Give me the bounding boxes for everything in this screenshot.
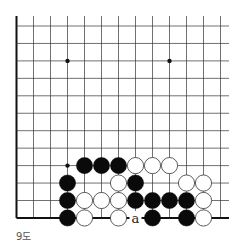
star-point-icon <box>65 59 69 63</box>
point-label: a <box>132 211 140 226</box>
white-stone <box>178 175 194 191</box>
black-stone <box>59 210 75 226</box>
black-stone <box>110 158 126 174</box>
white-stone <box>127 158 143 174</box>
star-point-icon <box>167 59 171 63</box>
white-stone <box>161 158 177 174</box>
black-stone <box>127 175 143 191</box>
white-stone <box>110 192 126 208</box>
black-stone <box>59 175 75 191</box>
black-stone <box>93 158 109 174</box>
black-stone <box>127 192 143 208</box>
white-stone <box>195 175 211 191</box>
white-stone <box>195 192 211 208</box>
black-stone <box>76 158 92 174</box>
black-stone <box>161 192 177 208</box>
point-labels: a <box>130 211 142 226</box>
black-stone <box>144 192 160 208</box>
white-stone <box>93 192 109 208</box>
go-board: a <box>0 0 247 242</box>
black-stone <box>59 192 75 208</box>
star-point-icon <box>65 163 69 167</box>
white-stone <box>110 175 126 191</box>
white-stone <box>76 192 92 208</box>
black-stone <box>178 210 194 226</box>
white-stone <box>110 210 126 226</box>
white-stone <box>144 158 160 174</box>
white-stone <box>195 210 211 226</box>
black-stone <box>178 192 194 208</box>
black-stone <box>144 210 160 226</box>
diagram-caption: 9도 <box>16 228 30 242</box>
white-stone <box>76 210 92 226</box>
